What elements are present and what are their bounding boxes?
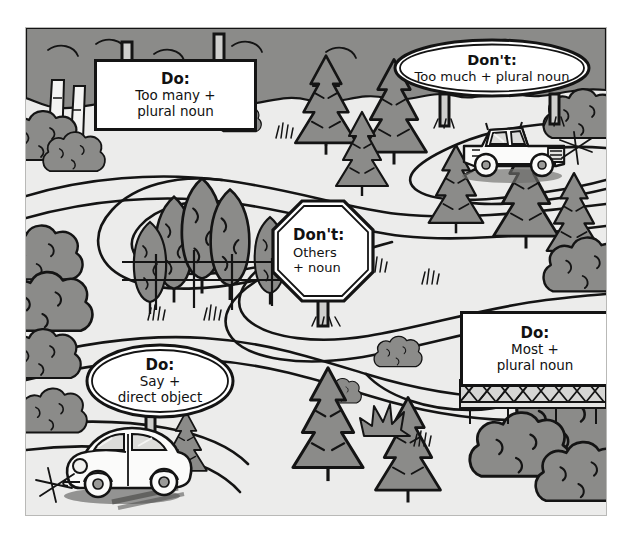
sign-line-1: Too much + plural noun [414, 69, 569, 84]
sign-line-1: Others [293, 245, 337, 260]
sign-line-2: + noun [293, 260, 341, 275]
illustration-canvas: Do: Too many + plural noun Don't: Too mu… [0, 0, 640, 538]
sign-dont-too-much[interactable]: Don't: Too much + plural noun [392, 37, 592, 99]
sign-dont-others[interactable]: Don't: Others + noun [271, 199, 375, 303]
sign-heading: Do: [146, 357, 175, 374]
sign-heading: Do: [161, 71, 190, 88]
sign-line-2: plural noun [137, 104, 214, 120]
sign-do-say[interactable]: Do: Say + direct object [84, 342, 236, 420]
scene-frame: Do: Too many + plural noun Don't: Too mu… [25, 27, 607, 516]
sign-line-1: Most + [511, 342, 559, 358]
sign-line-2: direct object [118, 390, 203, 406]
sign-line-1: Too many + [135, 88, 215, 104]
sign-do-most[interactable]: Do: Most + plural noun [460, 311, 607, 387]
sign-heading: Do: [521, 325, 550, 342]
sign-do-too-many[interactable]: Do: Too many + plural noun [94, 59, 257, 131]
pickup-truck [462, 122, 564, 183]
sign-line-2: plural noun [497, 358, 574, 374]
sign-line-1: Say + [140, 374, 180, 390]
sign-heading: Don't: [467, 52, 517, 69]
sign-heading: Don't: [293, 227, 344, 244]
beetle-car [63, 428, 191, 508]
